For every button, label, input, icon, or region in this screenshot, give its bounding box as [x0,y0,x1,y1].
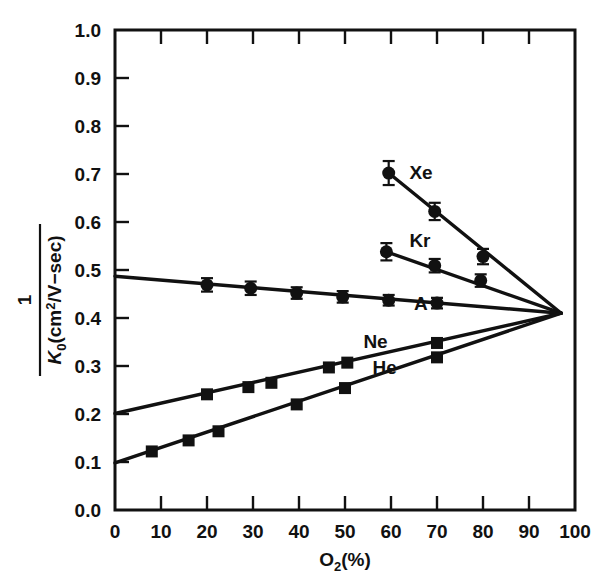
x-axis-ticks: 0102030405060708090100 [110,30,591,542]
x-axis-title: O2(%) [319,549,371,574]
x-axis-title-main: O [319,549,334,570]
data-point-circle[interactable] [244,282,257,295]
x-tick-label: 0 [110,521,121,542]
data-point-circle[interactable] [477,250,490,263]
y-tick-label: 0.9 [75,68,101,89]
y-tick-label: 0.8 [75,116,101,137]
x-tick-label: 100 [559,521,591,542]
data-point-square[interactable] [213,425,225,437]
series-line-he [115,313,561,463]
chart-figure: 1 K0(cm2/V−sec) O2(%) 0.00.10.20.30.40.5… [0,0,614,584]
y-tick-label: 0.0 [75,500,101,521]
x-tick-label: 30 [242,521,263,542]
data-point-circle[interactable] [336,290,349,303]
data-point-square[interactable] [265,377,277,389]
y-tick-label: 0.6 [75,212,101,233]
y-axis-title-numerator: 1 [14,294,35,305]
data-point-circle[interactable] [428,205,441,218]
y-axis-title: 1 K0(cm2/V−sec) [14,224,69,376]
y-tick-label: 1.0 [75,20,101,41]
series-label-ne: Ne [363,331,387,352]
y-axis-title-unit-open: (cm [44,310,65,344]
data-point-circle[interactable] [201,278,214,291]
data-point-circle[interactable] [290,287,303,300]
data-point-square[interactable] [431,337,443,349]
y-tick-label: 0.4 [75,308,102,329]
series-label-he: He [373,357,397,378]
series-line-ne [115,313,561,413]
data-point-circle[interactable] [382,167,395,180]
data-point-square[interactable] [201,388,213,400]
data-point-circle[interactable] [474,274,487,287]
y-tick-label: 0.3 [75,356,101,377]
y-tick-label: 0.2 [75,404,101,425]
y-axis-title-denominator: K0(cm2/V−sec) [43,235,69,364]
series-label-kr: Kr [409,230,431,251]
x-tick-label: 80 [472,521,493,542]
series-a [115,276,561,313]
x-tick-label: 90 [518,521,539,542]
y-tick-label: 0.1 [75,452,102,473]
svg-text:O2(%): O2(%) [319,549,371,574]
series-ne [115,313,561,413]
y-axis-title-k-subscript: 0 [54,344,69,351]
data-point-circle[interactable] [382,294,395,307]
data-point-circle[interactable] [431,297,444,310]
data-point-square[interactable] [291,398,303,410]
y-axis-title-unit-end: /V−sec) [44,235,65,302]
x-tick-label: 10 [150,521,171,542]
x-tick-label: 50 [334,521,355,542]
data-point-square[interactable] [183,434,195,446]
x-axis-title-tail: (%) [341,549,371,570]
data-point-square[interactable] [339,382,351,394]
x-tick-label: 40 [288,521,309,542]
y-tick-label: 0.5 [75,260,102,281]
scatter-line-plot: 1 K0(cm2/V−sec) O2(%) 0.00.10.20.30.40.5… [0,0,614,584]
data-point-square[interactable] [146,445,158,457]
x-axis-title-sub: 2 [334,559,341,574]
series-label-xe: Xe [409,162,432,183]
x-tick-label: 20 [196,521,217,542]
data-point-square[interactable] [242,381,254,393]
x-tick-label: 60 [380,521,401,542]
x-tick-label: 70 [426,521,447,542]
data-point-square[interactable] [341,357,353,369]
series-he [115,313,561,463]
series-kr [380,243,561,313]
series-label-a: A [414,293,428,314]
data-series-layer [115,161,561,463]
data-point-square[interactable] [431,351,443,363]
y-axis-title-unit-sup: 2 [43,303,58,310]
y-axis-ticks: 0.00.10.20.30.40.50.60.70.80.91.0 [75,20,129,521]
y-tick-label: 0.7 [75,164,101,185]
data-point-circle[interactable] [428,259,441,272]
series-line-kr [386,252,561,313]
data-point-square[interactable] [323,361,335,373]
data-point-circle[interactable] [380,245,393,258]
